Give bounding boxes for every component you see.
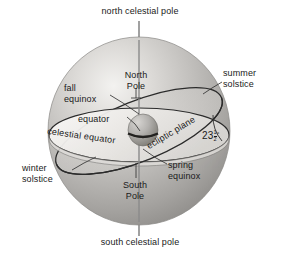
label-winter-solstice-line2: solstice [22,174,74,185]
label-fall-equinox-line2: equinox [64,94,114,105]
label-axial-tilt: 2312° [202,129,219,142]
label-north-pole-line2: Pole [113,81,159,92]
label-south-pole-line2: Pole [112,191,158,202]
label-summer-solstice: summer solstice [223,68,279,89]
label-fall-equinox: fall equinox [64,83,114,104]
label-north-pole: North Pole [113,70,159,91]
label-spring-equinox-line1: spring [168,160,220,171]
label-north-pole-line1: North [113,70,159,81]
label-spring-equinox: spring equinox [168,160,220,181]
label-winter-solstice: winter solstice [22,163,74,184]
label-summer-solstice-line1: summer [223,68,279,79]
tilt-whole-number: 23 [202,130,213,141]
label-fall-equinox-line1: fall [64,83,114,94]
diagram-canvas [0,0,281,258]
label-north-celestial-pole: north celestial pole [70,6,210,17]
label-spring-equinox-line2: equinox [168,171,220,182]
label-summer-solstice-line2: solstice [223,79,279,90]
label-winter-solstice-line1: winter [22,163,74,174]
label-south-pole: South Pole [112,180,158,201]
label-south-pole-line1: South [112,180,158,191]
label-south-celestial-pole: south celestial pole [70,237,210,248]
degree-symbol: ° [217,131,220,137]
label-equator: equator [78,114,130,125]
celestial-sphere-diagram: north celestial pole south celestial pol… [0,0,281,258]
